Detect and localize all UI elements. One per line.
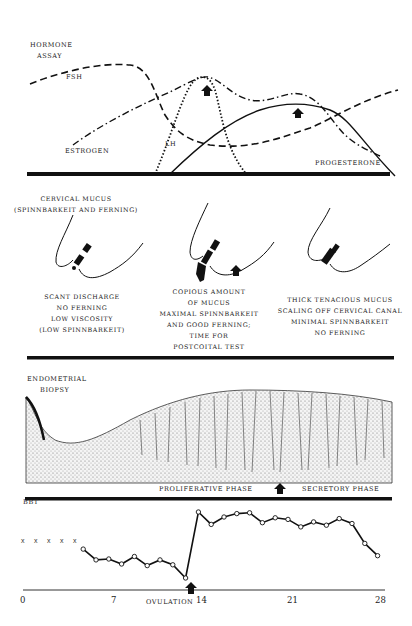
ovulation-arrow (185, 582, 197, 594)
section-divider-1 (27, 356, 394, 360)
bbt-point (299, 525, 303, 529)
estrogen-curve (73, 77, 380, 156)
hormone-baseline (27, 172, 390, 176)
bbt-line (83, 512, 377, 578)
stage-2-line: TIME FOR (159, 330, 258, 341)
stage-3-line: THICK TENACIOUS MUCUS (278, 294, 403, 305)
bbt-point (235, 511, 239, 515)
stage-1-line: LOW VISCOSITY (39, 313, 125, 324)
progesterone-peak-arrow (292, 108, 304, 118)
bbt-point (222, 515, 226, 519)
stage-3-description: THICK TENACIOUS MUCUS SCALING OFF CERVIC… (278, 294, 403, 338)
stage-3-line: NO FERNING (278, 327, 403, 338)
bbt-point (247, 511, 251, 515)
mucus-thick (321, 244, 340, 265)
bbt-point (107, 557, 111, 561)
bbt-point (363, 541, 367, 545)
phase-bar (25, 497, 392, 501)
secretory-phase-label: SECRETORY PHASE (302, 486, 379, 493)
bbt-point (375, 554, 379, 558)
bbt-point (183, 576, 187, 580)
bbt-point (260, 521, 264, 525)
svg-text:x: x (73, 537, 77, 544)
stage-2-line: AND GOOD FERNING; (159, 319, 258, 330)
progesterone-curve (170, 104, 395, 176)
bbt-point (81, 547, 85, 551)
stage-2-description: COPIOUS AMOUNT OF MUCUS MAXIMAL SPINNBAR… (159, 286, 258, 352)
stage-3-line: SCALING OFF CERVICAL CANAL (278, 305, 403, 316)
cervix-illustration-1 (56, 215, 143, 278)
endometrial-biopsy-title-line2: BIOPSY (40, 387, 69, 394)
x-tick-7: 7 (111, 595, 116, 605)
lh-peak-arrow (201, 85, 213, 96)
endometrium-tissue (26, 390, 392, 483)
stage-1-line: NO FERNING (39, 302, 125, 313)
bbt-point (337, 516, 341, 520)
x-tick-28: 28 (375, 595, 386, 605)
stage-1-line: SCANT DISCHARGE (39, 291, 125, 302)
cervix-illustration-3 (308, 208, 390, 272)
svg-text:x: x (60, 537, 64, 544)
stage-2-line: COPIOUS AMOUNT (159, 286, 258, 297)
bbt-point (145, 563, 149, 567)
mucus-scant (72, 243, 92, 270)
unrecorded-marks: xxx xx (21, 537, 77, 544)
stage-1-line: (LOW SPINNBARKEIT) (39, 324, 125, 335)
svg-text:x: x (21, 537, 25, 544)
stage-2-line: MAXIMAL SPINNBARKEIT (159, 308, 258, 319)
cervical-mucus-title: CERVICAL MUCUS (SPINNBARKEIT AND FERNING… (14, 193, 138, 215)
bbt-point (196, 510, 200, 514)
bbt-point (94, 558, 98, 562)
x-tick-14: 14 (196, 595, 207, 605)
ovulation-label: OVULATION (146, 599, 193, 606)
stage-2-line: POSTCOITAL TEST (159, 341, 258, 352)
bbt-point (171, 563, 175, 567)
mucus-copious (196, 239, 220, 282)
proliferative-phase-label: PROLIFERATIVE PHASE (159, 486, 253, 493)
bbt-title: BBT (23, 499, 39, 506)
bbt-point (350, 521, 354, 525)
cervical-mucus-title-line1: CERVICAL MUCUS (14, 193, 138, 204)
bbt-point (311, 520, 315, 524)
lh-curve (155, 77, 248, 176)
svg-text:x: x (47, 537, 51, 544)
bbt-point (286, 517, 290, 521)
x-tick-0: 0 (20, 595, 25, 605)
cervix-illustration-2 (190, 203, 274, 275)
phase-transition-arrow (274, 483, 286, 494)
cervical-mucus-title-line2: (SPINNBARKEIT AND FERNING) (14, 204, 138, 215)
endometrial-biopsy-title-line1: ENDOMETRIAL (27, 376, 87, 383)
x-tick-21: 21 (287, 595, 298, 605)
svg-text:x: x (34, 537, 38, 544)
stage-3-line: MINIMAL SPINNBARKEIT (278, 316, 403, 327)
stage-1-description: SCANT DISCHARGE NO FERNING LOW VISCOSITY… (39, 291, 125, 335)
stage-2-line: OF MUCUS (159, 297, 258, 308)
bbt-point (119, 562, 123, 566)
bbt-point (209, 522, 213, 526)
bbt-point (324, 523, 328, 527)
bbt-point (273, 516, 277, 520)
bbt-point (158, 558, 162, 562)
bbt-point (132, 554, 136, 558)
fsh-curve (30, 64, 398, 146)
